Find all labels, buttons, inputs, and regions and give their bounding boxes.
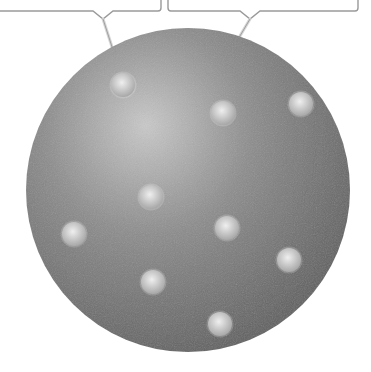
electron <box>210 100 237 127</box>
electron <box>276 247 303 274</box>
electron <box>138 184 165 211</box>
callout-box-1 <box>0 0 161 19</box>
electron <box>288 91 315 118</box>
electron <box>207 311 234 338</box>
electron <box>61 221 88 248</box>
plum-pudding-diagram <box>0 0 371 372</box>
electron <box>214 215 241 242</box>
electron <box>140 269 167 296</box>
electron <box>110 72 137 99</box>
positive-sphere <box>26 28 350 352</box>
callout-box-2 <box>168 0 358 19</box>
